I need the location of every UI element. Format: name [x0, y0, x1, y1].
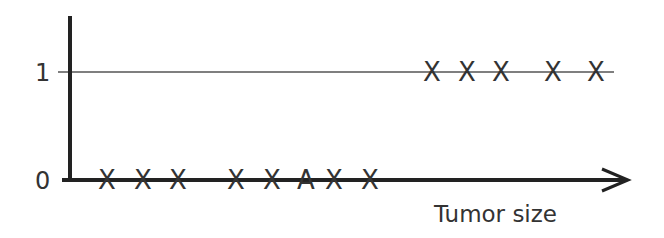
data-point-marker: X — [423, 57, 441, 87]
data-point-marker: X — [458, 57, 476, 87]
data-point-marker: X — [169, 165, 187, 195]
chart: 1 0 Tumor size XXXXXXXAXXXXX — [0, 0, 664, 238]
data-point-marker: X — [325, 165, 343, 195]
data-point-marker: X — [263, 165, 281, 195]
data-point-marker: X — [587, 57, 605, 87]
data-point-marker: X — [544, 57, 562, 87]
x-axis-label: Tumor size — [433, 201, 557, 227]
data-point-marker: X — [227, 165, 245, 195]
data-point-marker: X — [134, 165, 152, 195]
data-point-marker: A — [297, 165, 315, 195]
data-point-marker: X — [492, 57, 510, 87]
y-tick-0: 0 — [35, 167, 50, 195]
data-point-marker: X — [98, 165, 116, 195]
data-point-marker: X — [361, 165, 379, 195]
data-markers: XXXXXXXAXXXXX — [98, 57, 605, 195]
y-tick-1: 1 — [35, 59, 50, 87]
